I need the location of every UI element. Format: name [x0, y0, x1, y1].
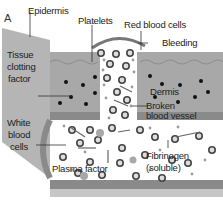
label-fibrinogen-1: Fibrinogen — [146, 151, 189, 161]
diagram-illustration — [0, 0, 223, 211]
label-white-blood-cells-3: cells — [10, 142, 28, 152]
label-white-blood-cells-2: blood — [8, 130, 30, 140]
label-broken-vessel-2: blood vessel — [146, 111, 196, 121]
label-tissue-clotting-factor-3: factor — [8, 74, 31, 84]
label-dermis: Dermis — [150, 87, 179, 97]
bleeding-arc — [92, 38, 145, 48]
label-plasma-factor: Plasma factor — [52, 164, 107, 174]
panel-letter: A — [4, 12, 11, 24]
label-fibrinogen-2: (soluble) — [146, 163, 181, 173]
label-red-blood-cells: Red blood cells — [124, 20, 186, 30]
vessel-top-wall-left — [50, 112, 100, 120]
label-epidermis: Epidermis — [28, 6, 68, 16]
blood-clotting-diagram: A Epidermis Platelets Red blood cells Bl… — [0, 0, 223, 211]
label-bleeding: Bleeding — [162, 38, 197, 48]
vessel-bottom-wall-light — [50, 189, 223, 197]
label-tissue-clotting-factor-1: Tissue — [7, 50, 33, 60]
label-tissue-clotting-factor-2: clotting — [7, 62, 36, 72]
label-white-blood-cells-1: White — [7, 118, 30, 128]
label-platelets: Platelets — [78, 16, 113, 26]
vessel-bottom-wall — [50, 180, 223, 189]
